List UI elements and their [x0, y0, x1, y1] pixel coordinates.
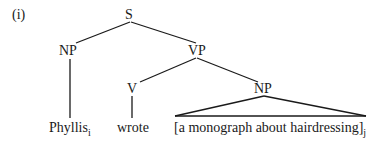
- node-subject-np: NP: [59, 44, 77, 58]
- example-label: (i): [12, 8, 25, 22]
- node-v: V: [127, 82, 137, 96]
- leaf-subject-text: Phyllis: [49, 120, 88, 135]
- node-vp: VP: [188, 44, 206, 58]
- node-object-np: NP: [254, 82, 272, 96]
- leaf-object-index: j: [363, 127, 366, 138]
- leaf-object-text: [a monograph about hairdressing]: [174, 120, 363, 135]
- leaf-verb: wrote: [117, 121, 149, 135]
- leaf-object: [a monograph about hairdressing]j: [174, 121, 366, 136]
- leaf-subject-index: i: [88, 127, 91, 138]
- leaf-subject: Phyllisi: [49, 121, 91, 136]
- node-s: S: [125, 8, 133, 22]
